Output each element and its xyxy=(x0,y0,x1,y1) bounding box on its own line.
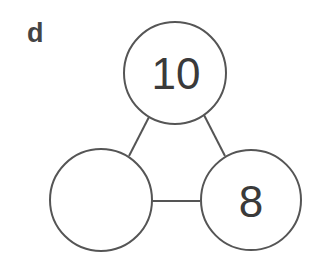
edge-top-bottom-left xyxy=(129,117,149,156)
node-bottom-right-value: 8 xyxy=(239,177,263,226)
node-top-value: 10 xyxy=(152,49,201,98)
edge-top-bottom-right xyxy=(204,115,225,156)
node-bottom-left[interactable] xyxy=(50,149,152,251)
number-bond-diagram: d 10 8 xyxy=(0,0,318,265)
diagram-canvas: 10 8 xyxy=(0,0,318,265)
